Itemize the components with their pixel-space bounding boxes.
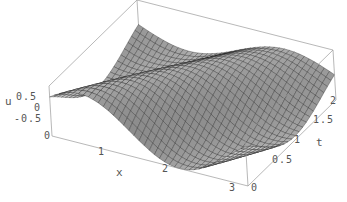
surface-plot <box>0 0 347 202</box>
surface-mesh <box>50 25 335 170</box>
t-tick-label: 2 <box>330 96 337 106</box>
u-tick-label: 0 <box>34 103 41 113</box>
u-tick-label: -0.5 <box>14 114 42 124</box>
u-tick-label: 0 <box>44 131 51 141</box>
x-tick-label: 2 <box>162 164 169 174</box>
t-axis-label: t <box>316 137 323 148</box>
x-tick-label: 1 <box>98 147 105 157</box>
x-axis-label: x <box>116 167 123 178</box>
t-tick-label: 0 <box>251 183 258 193</box>
u-tick-label: 0.5 <box>16 92 37 102</box>
t-tick-label: 0.5 <box>272 155 293 165</box>
t-tick-label: 1 <box>294 135 301 145</box>
t-tick-label: 1.5 <box>313 115 334 125</box>
x-tick-label: 3 <box>229 183 236 193</box>
u-axis-label: u <box>5 96 12 107</box>
